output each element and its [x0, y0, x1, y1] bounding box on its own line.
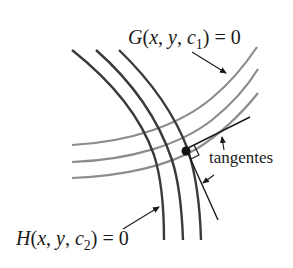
h-curve-label: H(x, y, c2) = 0 — [16, 228, 129, 248]
h-curve-family — [72, 50, 201, 240]
g-curve-1 — [72, 47, 257, 145]
h-curve-3 — [119, 50, 201, 240]
g-label-arrow — [192, 52, 226, 73]
g-curve-label: G(x, y, c1) = 0 — [128, 27, 241, 47]
tangents-label: tangentes — [209, 149, 273, 166]
h-curve-2 — [96, 50, 183, 240]
tangent-lines — [186, 117, 250, 220]
h-label-arrow — [123, 207, 159, 229]
intersection-point — [182, 147, 191, 156]
tangent-arrow-lower — [203, 175, 214, 183]
orthogonal-curves-diagram: G(x, y, c1) = 0 tangentes H(x, y, c2) = … — [0, 0, 293, 268]
tangent-line-g — [186, 117, 250, 149]
